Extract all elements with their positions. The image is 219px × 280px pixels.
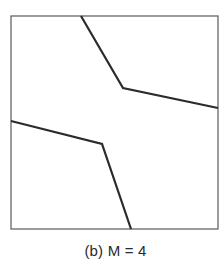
square-frame: [11, 16, 218, 229]
figure-caption: (b) M = 4: [0, 242, 219, 259]
upper-boundary-line: [81, 16, 218, 108]
lower-boundary-line: [11, 121, 131, 229]
partition-diagram: [0, 0, 219, 240]
